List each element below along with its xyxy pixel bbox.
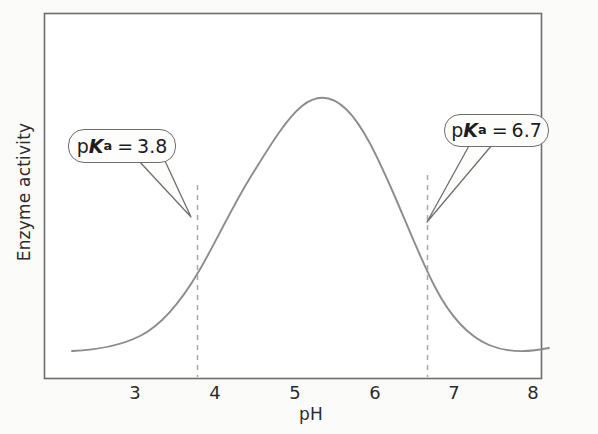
pka-left-prefix: p	[77, 137, 89, 156]
x-tick-label-6: 6	[360, 382, 390, 403]
x-axis-label: pH	[276, 404, 346, 424]
pka-right-value: 6.7	[512, 121, 542, 140]
pka-left-equals: =	[117, 137, 133, 156]
annotation-callout-pka-right: pKa=6.7	[444, 114, 549, 147]
pka-right-equals: =	[492, 121, 508, 140]
x-tick-label-3: 3	[120, 382, 150, 403]
x-tick-label-5: 5	[280, 382, 310, 403]
y-axis-label: Enzyme activity	[14, 112, 34, 272]
annotation-callout-pka-left: pKa=3.8	[68, 129, 176, 163]
pka-left-symbol: K	[89, 137, 104, 156]
chart-figure: Enzyme activity pH 3 4 5 6 7 8 pKa=3.8 p…	[0, 0, 598, 434]
x-tick-label-4: 4	[200, 382, 230, 403]
x-tick-label-8: 8	[518, 382, 548, 403]
plot-frame	[45, 14, 542, 379]
x-tick-label-7: 7	[439, 382, 469, 403]
pka-right-subscript: a	[478, 124, 487, 137]
pka-left-value: 3.8	[137, 137, 167, 156]
pka-right-prefix: p	[451, 121, 463, 140]
pka-left-subscript: a	[103, 140, 112, 153]
pka-right-symbol: K	[463, 121, 478, 140]
plot-canvas	[0, 0, 598, 434]
